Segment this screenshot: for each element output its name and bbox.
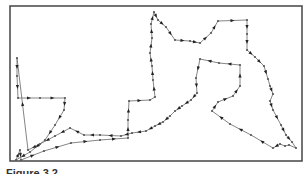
- tour-node: [127, 119, 129, 121]
- tour-node: [254, 56, 256, 58]
- tour-node: [16, 75, 18, 77]
- tour-node: [279, 143, 281, 145]
- direction-arrow-icon: [274, 144, 279, 149]
- tour-node: [70, 142, 72, 144]
- tour-node: [267, 78, 269, 80]
- tour-node: [16, 57, 18, 59]
- tour-node: [54, 135, 56, 137]
- tour-node: [246, 19, 248, 21]
- tour-node: [151, 65, 153, 67]
- tour-node: [211, 110, 213, 112]
- direction-arrow-icon: [137, 99, 141, 102]
- tour-node: [284, 145, 286, 147]
- direction-arrow-icon: [21, 102, 25, 106]
- direction-arrow-icon: [55, 145, 60, 149]
- direction-arrow-icon: [30, 153, 35, 157]
- direction-arrow-icon: [180, 39, 184, 42]
- tour-node: [190, 99, 192, 101]
- direction-arrow-icon: [90, 133, 94, 136]
- tour-figure: Figure 3.2: [0, 0, 308, 174]
- tour-node: [39, 143, 41, 145]
- direction-arrow-icon: [74, 129, 79, 134]
- direction-arrow-icon: [269, 103, 273, 108]
- tour-node: [246, 49, 248, 51]
- tour-node: [181, 105, 183, 107]
- tour-node: [210, 32, 212, 34]
- tour-node: [246, 33, 248, 35]
- direction-arrow-icon: [151, 71, 154, 75]
- direction-arrow-icon: [238, 74, 241, 78]
- tour-node: [217, 20, 219, 22]
- tour-node: [272, 93, 274, 95]
- tour-node: [64, 97, 66, 99]
- tour-node: [149, 99, 151, 101]
- tour-node: [29, 151, 31, 153]
- direction-arrow-icon: [259, 139, 264, 144]
- tour-node: [128, 100, 130, 102]
- tour-node: [272, 109, 274, 111]
- tour-node: [280, 124, 282, 126]
- direction-arrow-icon: [156, 122, 161, 127]
- tour-node: [199, 42, 201, 44]
- direction-arrow-icon: [57, 115, 62, 120]
- tour-node: [151, 37, 153, 39]
- tour-node: [162, 121, 164, 123]
- tour-node: [239, 64, 241, 66]
- tour-node: [19, 149, 21, 151]
- tour-node: [69, 127, 71, 129]
- direction-arrow-icon: [150, 29, 153, 33]
- tour-node: [150, 23, 152, 25]
- direction-arrow-icon: [112, 137, 116, 140]
- tour-node: [39, 97, 41, 99]
- direction-arrow-icon: [83, 140, 87, 144]
- direction-arrow-icon: [16, 85, 19, 89]
- tour-node: [99, 134, 101, 136]
- direction-arrow-icon: [264, 70, 268, 75]
- direction-arrow-icon: [126, 127, 129, 131]
- direction-arrow-icon: [60, 130, 65, 135]
- tour-node: [269, 100, 271, 102]
- tour-node: [199, 58, 201, 60]
- tour-node: [239, 85, 241, 87]
- tour-node: [83, 134, 85, 136]
- tour-node: [131, 132, 133, 134]
- tour-node: [229, 123, 231, 125]
- direction-arrow-icon: [127, 108, 130, 112]
- direction-arrow-icon: [152, 86, 156, 90]
- tour-node: [17, 97, 19, 99]
- tour-node: [44, 139, 46, 141]
- direction-arrow-icon: [245, 25, 248, 29]
- direction-arrow-icon: [63, 102, 67, 106]
- direction-arrow-icon: [223, 97, 228, 101]
- tour-node: [154, 125, 156, 127]
- tour-node: [291, 141, 293, 143]
- direction-arrow-icon: [195, 83, 198, 87]
- tour-node: [54, 124, 56, 126]
- tour-node: [154, 96, 156, 98]
- direction-arrow-icon: [51, 96, 55, 99]
- tour-node: [127, 137, 129, 139]
- tour-node: [195, 77, 197, 79]
- tour-node: [152, 79, 154, 81]
- tour-node: [272, 147, 274, 149]
- tour-nodes: [15, 11, 297, 161]
- tour-node: [285, 134, 287, 136]
- tour-node: [189, 40, 191, 42]
- tour-node: [99, 139, 101, 141]
- direction-arrow-icon: [238, 127, 243, 132]
- tour-node: [169, 115, 171, 117]
- tour-node: [157, 19, 159, 21]
- tour-node: [27, 149, 29, 151]
- tour-node: [63, 109, 65, 111]
- direction-arrow-icon: [227, 62, 231, 66]
- tour-node: [174, 110, 176, 112]
- direction-arrow-icon: [230, 19, 234, 22]
- direction-arrow-icon: [154, 13, 159, 18]
- tour-node: [174, 39, 176, 41]
- tour-node: [217, 101, 219, 103]
- tour-node: [269, 85, 271, 87]
- tour-path: [16, 12, 296, 160]
- direction-arrow-icon: [269, 88, 273, 93]
- tour-node: [145, 130, 147, 132]
- direction-arrow-icon: [148, 126, 153, 131]
